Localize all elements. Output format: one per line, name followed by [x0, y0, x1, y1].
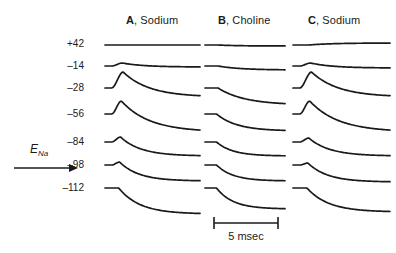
trace-b-–84 — [205, 142, 285, 156]
trace-b-–56 — [205, 114, 285, 130]
trace-c-–14 — [293, 63, 390, 68]
trace-a-–56 — [105, 101, 200, 130]
trace-c-–56 — [293, 101, 390, 130]
trace-c-–84 — [293, 138, 390, 156]
figure-canvas: A, Sodium B, Choline C, Sodium +42 –14 –… — [0, 0, 396, 253]
trace-a-–98 — [105, 162, 200, 181]
trace-c-–98 — [293, 163, 390, 182]
trace-c-+42 — [293, 43, 390, 45]
trace-c-–28 — [293, 72, 390, 96]
scale-bar-label: 5 msec — [196, 230, 296, 242]
trace-a-–112 — [105, 188, 200, 213]
trace-b-–28 — [205, 88, 285, 104]
trace-b-–98 — [205, 165, 285, 181]
trace-a-–14 — [105, 63, 200, 67]
trace-c-–112 — [293, 188, 390, 211]
scale-bar: 5 msec — [196, 216, 296, 250]
scale-bar-line-icon — [196, 216, 296, 230]
trace-b-–112 — [205, 188, 285, 209]
trace-a-–84 — [105, 137, 200, 156]
trace-b-+42 — [205, 45, 285, 46]
trace-b-–14 — [205, 66, 285, 70]
trace-a-–28 — [105, 72, 200, 96]
